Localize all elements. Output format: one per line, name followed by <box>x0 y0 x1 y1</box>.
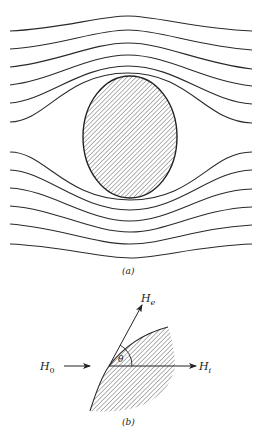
caption-b: (b) <box>122 417 135 427</box>
figure-b: H0 He Hi θ (b) <box>39 292 212 427</box>
caption-a: (a) <box>122 266 135 276</box>
label-theta: θ <box>118 354 124 364</box>
label-Hi: Hi <box>198 360 212 375</box>
figure-canvas: (a) H0 He Hi θ (b) <box>0 0 258 432</box>
figure-a: (a) <box>10 16 252 276</box>
label-He: He <box>140 292 156 307</box>
label-H0: H0 <box>39 360 55 375</box>
superconductor-body <box>83 76 177 198</box>
shaded-region <box>90 327 175 411</box>
